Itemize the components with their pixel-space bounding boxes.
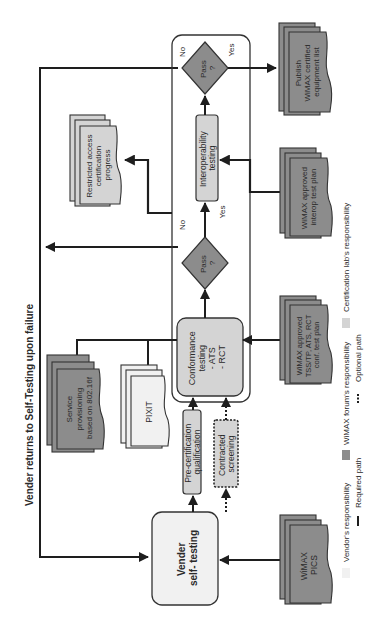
legend-vendor: Vendor's responsibility [342, 483, 351, 562]
interop-plan-label-1: WiMAX approved [300, 167, 309, 229]
legend: Vendor's responsibility WiMAX forum's re… [342, 203, 363, 578]
pass1-q: ? [208, 260, 217, 265]
pass1-yes-label: Yes [218, 205, 227, 218]
screening-label-2: screening [226, 435, 236, 472]
restricted-label-3: progress [103, 149, 112, 180]
certification-flow-diagram: Vender returns to Self-Testing upon fail… [0, 0, 378, 634]
publish-label-1: Publish [294, 60, 303, 86]
legend-swatch-vendor [342, 568, 350, 578]
pass2-no-label: No [178, 46, 187, 57]
pass2-label: Pass [199, 60, 208, 78]
conformance-label-3: - ATS [207, 347, 217, 369]
legend-swatch-lab [342, 318, 350, 328]
svg-text:Pre-certification qualif: Pre-certification qualification [183, 421, 202, 482]
interop-plan-label-2: interop test plan [309, 169, 318, 226]
doc-publish-certified-list[interactable]: Publish WiMAX certified equipment list [279, 23, 332, 115]
legend-required: Required path [354, 458, 363, 508]
conformance-label-1: Conformance [187, 331, 197, 385]
pics-label-2: PICS [309, 555, 319, 575]
pass2-yes-label: Yes [227, 43, 236, 56]
doc-pixit[interactable]: PIXIT [121, 365, 169, 448]
pass-decision-2[interactable]: Pass ? No Yes [178, 42, 236, 94]
publish-label-3: equipment list [312, 47, 321, 97]
pass2-q: ? [208, 65, 217, 70]
conformance-label-4: - RCT [217, 345, 227, 369]
svg-text:Contracted screening: Contracted screening [217, 432, 236, 476]
pre-cert-label-2: qualification [192, 429, 202, 474]
self-testing-label: self- testing [188, 530, 199, 586]
legend-lab: Certification lab's responsibility [342, 203, 351, 312]
pics-label-1: WiMAX [299, 552, 309, 581]
doc-restricted-access-progress[interactable]: Restricted access certification progress [70, 115, 121, 206]
contracted-screening-box[interactable]: Contracted screening [214, 420, 238, 487]
conf-plan-label-3: conf. test plan [312, 322, 321, 369]
legend-optional: Optional path [354, 334, 363, 382]
doc-interop-test-plan[interactable]: WiMAX approved interop test plan [280, 148, 332, 238]
restricted-label-1: Restricted access [85, 135, 94, 198]
pre-certification-box[interactable]: Pre-certification qualification [183, 410, 202, 494]
interoperability-testing-box[interactable]: Interoperability testing [196, 115, 218, 201]
publish-label-2: WiMAX certified [303, 45, 312, 102]
doc-service-provisioning[interactable]: Service provisioning based on 802.16f [47, 355, 104, 452]
doc-wimax-pics[interactable]: WiMAX PICS [280, 515, 332, 604]
service-label-3: based on 802.16f [85, 376, 94, 439]
doc-conformance-test-plan[interactable]: WiMAX approved TSS/TP, ATS, RCT conf. te… [280, 296, 332, 384]
pass-decision-1[interactable]: Pass ? No Yes [178, 205, 228, 289]
conformance-label-2: testing [197, 345, 207, 372]
legend-forum: WiMAX forum's responsibility [342, 342, 351, 445]
legend-swatch-forum [342, 450, 350, 460]
svg-text:WiMAX approved TSS/TP, A: WiMAX approved TSS/TP, ATS, RCT conf. te… [295, 313, 321, 378]
svg-text:WiMAX approved interop t: WiMAX approved interop test plan [300, 165, 318, 229]
service-label-2: provisioning [75, 388, 84, 431]
pass1-no-label: No [178, 219, 187, 230]
conformance-testing-box[interactable]: Conformance testing - ATS - RCT [177, 318, 243, 396]
interop-label-2: testing [207, 145, 217, 170]
vender-self-testing-box[interactable]: Vender self- testing [152, 512, 218, 605]
service-label-1: Service [65, 395, 74, 422]
pass1-label: Pass [199, 255, 208, 273]
diagram-title: Vender returns to Self-Testing upon fail… [24, 304, 35, 506]
restricted-label-2: certification [94, 146, 103, 186]
pixit-label: PIXIT [144, 401, 154, 422]
vender-label: Vender [176, 543, 187, 576]
